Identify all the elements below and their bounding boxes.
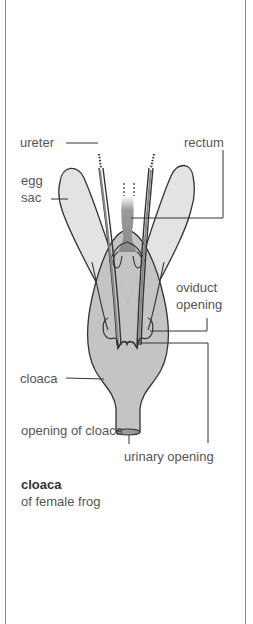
label-egg-sac-line1: egg (21, 173, 43, 188)
label-opening-of-cloaca: opening of cloaca (21, 423, 123, 438)
label-cloaca: cloaca (20, 371, 58, 386)
cloaca-diagram (0, 0, 253, 624)
caption-title: cloaca (21, 477, 61, 492)
caption-subtitle: of female frog (21, 494, 101, 509)
label-urinary-opening: urinary opening (124, 449, 214, 464)
label-ureter: ureter (20, 135, 54, 150)
label-egg-sac-line2: sac (21, 190, 41, 205)
label-oviduct-opening-line1: oviduct (176, 280, 217, 295)
label-oviduct-opening-line2: opening (176, 297, 222, 312)
label-rectum: rectum (184, 135, 224, 150)
